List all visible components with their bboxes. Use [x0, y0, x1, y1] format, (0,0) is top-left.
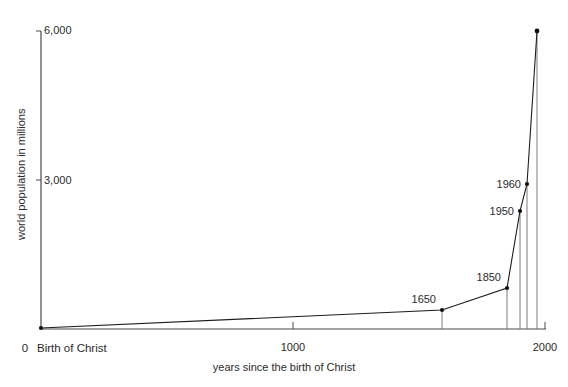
data-point-year-2000 [535, 29, 540, 34]
y-tick-label-6000: 6,000 [44, 24, 72, 36]
x-axis-origin-note: Birth of Christ [37, 342, 107, 354]
x-tick-label-0: 0 [22, 342, 28, 354]
data-point-year-1650 [440, 308, 444, 312]
data-label-1650: 1650 [412, 293, 436, 305]
y-axis-title: world population in millions [15, 108, 27, 241]
data-label-1950: 1950 [490, 205, 514, 217]
data-point-year-1850 [505, 286, 509, 290]
x-tick-label-2000: 2000 [533, 341, 557, 353]
y-tick-label-3000: 3,000 [44, 174, 72, 186]
population-chart: 6,000 3,000 world population in millions… [0, 0, 568, 387]
data-label-1850: 1850 [477, 271, 501, 283]
data-point-year-1960 [525, 182, 529, 186]
x-tick-label-1000: 1000 [281, 341, 305, 353]
data-label-1960: 1960 [497, 178, 521, 190]
chart-canvas: 6,000 3,000 world population in millions… [0, 0, 568, 387]
data-point-year-1950 [518, 209, 522, 213]
population-curve [41, 31, 537, 328]
data-point-year-0 [39, 326, 43, 330]
x-axis-title: years since the birth of Christ [213, 361, 355, 373]
